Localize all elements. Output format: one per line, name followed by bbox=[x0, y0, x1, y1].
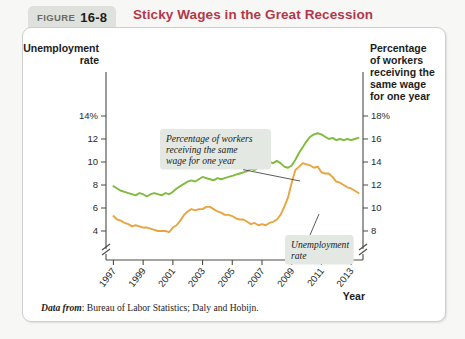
plot-area: 14%121086418%161412108199719992001200320… bbox=[23, 28, 446, 322]
x-axis-tick-label: 2007 bbox=[245, 265, 267, 288]
figure-tab: FIGURE 16-8 bbox=[28, 6, 116, 28]
right-axis-tick-label: 18% bbox=[371, 110, 391, 121]
left-axis-title: rate bbox=[80, 54, 99, 66]
green-callout-line: wage for one year bbox=[166, 155, 236, 166]
left-axis-tick-label: 12 bbox=[87, 133, 98, 144]
x-axis-tick-label: 2011 bbox=[305, 265, 326, 288]
right-axis-title: Percentage bbox=[370, 42, 427, 54]
page-title: Sticky Wages in the Great Recession bbox=[133, 7, 373, 22]
x-axis-title: Year bbox=[343, 290, 365, 302]
right-axis-tick-label: 14 bbox=[371, 156, 382, 167]
left-axis-title: Unemployment bbox=[23, 42, 99, 54]
figure-number: 16-8 bbox=[80, 10, 107, 25]
x-axis-tick-label: 1999 bbox=[126, 265, 148, 288]
green-callout-line: receiving the same bbox=[166, 144, 238, 155]
right-axis-title: of workers bbox=[370, 54, 423, 66]
right-axis-title: receiving the bbox=[370, 66, 435, 78]
figure-label: FIGURE bbox=[37, 12, 75, 23]
right-axis-tick-label: 8 bbox=[371, 225, 376, 236]
source-lead: Data from bbox=[41, 302, 82, 313]
chart-panel: 14%121086418%161412108199719992001200320… bbox=[22, 27, 446, 322]
x-axis-tick-label: 2005 bbox=[215, 265, 237, 288]
right-axis-tick-label: 10 bbox=[371, 202, 382, 213]
chart-svg: 14%121086418%161412108199719992001200320… bbox=[23, 28, 446, 322]
series-line-orange bbox=[113, 163, 358, 232]
left-axis-tick-label: 10 bbox=[87, 156, 98, 167]
source-text: : Bureau of Labor Statistics; Daly and H… bbox=[82, 302, 259, 313]
right-axis-title: same wage bbox=[370, 78, 426, 90]
x-axis-tick-label: 2003 bbox=[185, 265, 207, 288]
orange-callout-line: Unemployment bbox=[291, 239, 349, 250]
orange-callout-leader bbox=[310, 214, 319, 235]
right-axis-tick-label: 12 bbox=[371, 179, 382, 190]
left-axis-tick-label: 8 bbox=[93, 179, 98, 190]
left-axis-tick-label: 14% bbox=[79, 110, 99, 121]
green-callout-leader bbox=[243, 170, 300, 181]
left-axis-tick-label: 6 bbox=[93, 202, 98, 213]
left-axis-tick-label: 4 bbox=[93, 225, 98, 236]
x-axis-tick-label: 2001 bbox=[156, 265, 178, 288]
right-axis-title: for one year bbox=[370, 90, 430, 102]
x-axis-tick-label: 2013 bbox=[334, 265, 356, 288]
right-axis-tick-label: 16 bbox=[371, 133, 382, 144]
source-note: Data from: Bureau of Labor Statistics; D… bbox=[41, 302, 259, 313]
x-axis-tick-label: 1997 bbox=[96, 265, 118, 288]
green-callout-line: Percentage of workers bbox=[165, 133, 253, 144]
x-axis-tick-label: 2009 bbox=[275, 265, 297, 288]
orange-callout-line: rate bbox=[291, 250, 307, 261]
